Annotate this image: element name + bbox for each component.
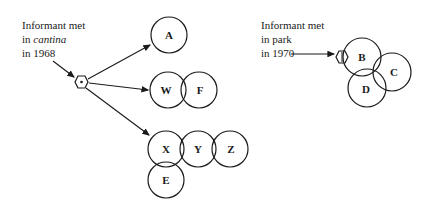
node-A: A xyxy=(151,17,187,53)
caption-pointer-arrow xyxy=(53,61,74,77)
informant-hexagon-1970 xyxy=(336,51,348,63)
node-C: C xyxy=(373,53,411,91)
network-diagram: Informant met in cantina in 1968 A W F X… xyxy=(0,0,429,213)
arrow-to-A xyxy=(88,45,150,79)
svg-text:X: X xyxy=(162,143,170,155)
svg-text:D: D xyxy=(362,83,370,95)
node-Y: Y xyxy=(180,131,216,167)
left-caption: Informant met in cantina in 1968 xyxy=(22,19,85,59)
arrow-to-WF xyxy=(89,83,148,90)
left-caption-line2: in cantina xyxy=(22,33,67,45)
svg-text:Y: Y xyxy=(194,143,202,155)
left-caption-line1: Informant met xyxy=(22,19,85,31)
right-caption: Informant met in park in 1970 xyxy=(261,19,324,59)
left-caption-line3: in 1968 xyxy=(22,47,56,59)
svg-text:C: C xyxy=(390,66,398,78)
node-D: D xyxy=(348,69,386,107)
svg-text:F: F xyxy=(197,84,204,96)
right-caption-line1: Informant met xyxy=(261,19,324,31)
svg-text:W: W xyxy=(161,84,172,96)
svg-text:A: A xyxy=(165,29,173,41)
right-caption-line2: in park xyxy=(261,33,292,45)
svg-text:Z: Z xyxy=(227,143,234,155)
arrow-to-XYZE xyxy=(86,88,149,135)
svg-text:B: B xyxy=(358,51,366,63)
informant-hexagon-1968 xyxy=(75,76,88,88)
node-Z: Z xyxy=(212,131,248,167)
right-caption-line3: in 1970 xyxy=(261,47,295,59)
svg-text:E: E xyxy=(162,174,169,186)
